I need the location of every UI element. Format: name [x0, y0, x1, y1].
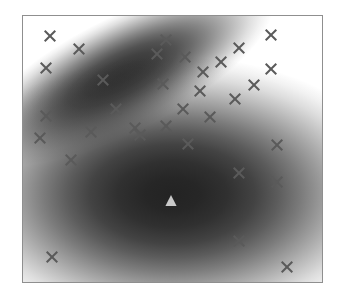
density-blob-2	[23, 56, 322, 282]
plot-frame	[22, 15, 323, 283]
density-surface	[23, 16, 322, 282]
figure-root	[0, 0, 341, 297]
